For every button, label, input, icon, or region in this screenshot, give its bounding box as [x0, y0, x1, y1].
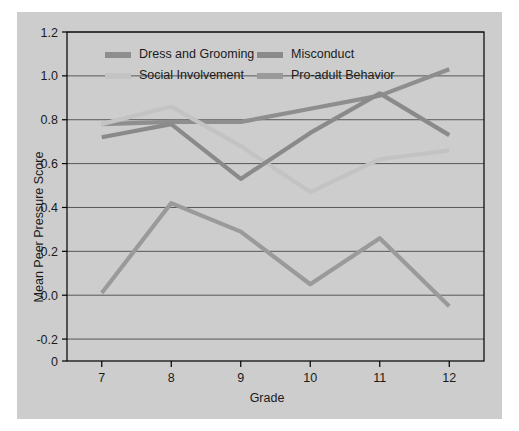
x-tick-label: 11	[373, 371, 386, 385]
chart-figure: 1.21.00.80.60.40.20.0-0.20789101112 Dres…	[17, 12, 502, 419]
series-lines-group	[102, 69, 450, 306]
legend-swatch-2	[257, 52, 283, 58]
y-axis-title: Mean Peer Pressure Score	[32, 152, 46, 303]
x-tick-label: 7	[98, 371, 105, 385]
line-chart: 1.21.00.80.60.40.20.0-0.20789101112 Dres…	[17, 12, 502, 419]
series-line-3	[102, 203, 450, 306]
y-tick-label: 1.0	[41, 69, 58, 83]
y-tick-label: -0.2	[36, 333, 58, 347]
x-tick-label: 12	[442, 371, 456, 385]
x-tick-label: 10	[303, 371, 317, 385]
legend-swatch-3	[257, 73, 283, 79]
legend-label-2: Misconduct	[291, 47, 355, 61]
x-axis-title: Grade	[250, 391, 285, 405]
legend-swatch-0	[105, 52, 131, 58]
legend-label-3: Pro-adult Behavior	[291, 68, 395, 82]
y-tick-label: 0	[51, 355, 58, 369]
x-tick-label: 8	[168, 371, 175, 385]
y-tick-label: 0.8	[41, 113, 58, 127]
series-line-2	[102, 93, 450, 179]
x-tick-label: 9	[237, 371, 244, 385]
legend-label-0: Dress and Grooming	[139, 47, 254, 61]
chart-plot-area: 1.21.00.80.60.40.20.0-0.20789101112 Dres…	[17, 12, 502, 419]
legend-swatch-1	[105, 73, 131, 79]
legend-label-1: Social Involvement	[139, 68, 244, 82]
y-tick-label: 1.2	[41, 26, 58, 40]
chart-legend: Dress and GroomingSocial InvolvementMisc…	[105, 47, 395, 82]
